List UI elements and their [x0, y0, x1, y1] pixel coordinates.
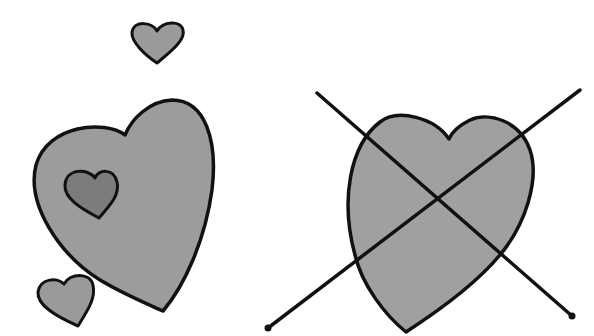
large-heart-icon	[34, 100, 213, 311]
small-bottom-heart-icon	[38, 276, 94, 327]
hearts-illustration	[0, 0, 594, 336]
small-top-heart-icon	[132, 23, 183, 63]
